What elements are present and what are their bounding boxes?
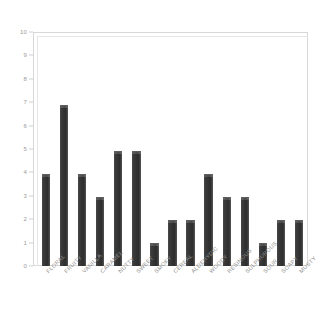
y-axis-tick-mark <box>29 55 33 56</box>
bar-top-cap <box>114 152 122 154</box>
y-axis-tick-mark <box>29 266 33 267</box>
bar-slot <box>204 36 212 266</box>
bar-slot <box>241 36 249 266</box>
y-axis-tick-label: 5 <box>23 146 27 152</box>
bar-top-cap <box>150 244 158 246</box>
y-axis-tick-label: 0 <box>23 263 27 269</box>
bar-chart: 012345678910 FLORALFRUITYVANILLACARAMELN… <box>0 0 324 329</box>
bar-top-cap <box>223 198 231 200</box>
y-axis-tick-mark <box>29 149 33 150</box>
bar-top-cap <box>259 244 267 246</box>
bar <box>277 220 285 266</box>
bar-top-cap <box>204 175 212 177</box>
y-axis-tick-mark <box>29 172 33 173</box>
y-axis: 012345678910 <box>0 32 33 266</box>
y-axis-tick-label: 4 <box>23 169 27 175</box>
y-axis-tick-label: 2 <box>23 216 27 222</box>
y-axis-tick-label: 10 <box>20 29 27 35</box>
bar-slot <box>295 36 303 266</box>
bar-top-cap <box>168 221 176 223</box>
bar-top-cap <box>60 106 68 108</box>
bar-top-cap <box>277 221 285 223</box>
y-axis-tick-mark <box>29 78 33 79</box>
y-axis-tick-mark <box>29 219 33 220</box>
bar-slot <box>168 36 176 266</box>
bar-slot <box>186 36 194 266</box>
y-axis-tick-mark <box>29 102 33 103</box>
bar-top-cap <box>78 175 86 177</box>
bar <box>132 151 140 266</box>
bar-slot <box>277 36 285 266</box>
bar <box>78 174 86 266</box>
bar-top-cap <box>295 221 303 223</box>
bar-top-cap <box>42 175 50 177</box>
y-axis-tick-label: 6 <box>23 123 27 129</box>
y-axis-tick-mark <box>29 242 33 243</box>
y-axis-tick-label: 3 <box>23 193 27 199</box>
bar-slot <box>60 36 68 266</box>
bar-top-cap <box>96 198 104 200</box>
x-axis-category-labels: FLORALFRUITYVANILLACARAMELNUTTYSWEETSMOK… <box>37 266 308 329</box>
bar-slot <box>150 36 158 266</box>
bar-slot <box>96 36 104 266</box>
bar-top-cap <box>132 152 140 154</box>
bar-top-cap <box>241 198 249 200</box>
bars-layer <box>37 36 308 266</box>
bar-slot <box>132 36 140 266</box>
bar-slot <box>223 36 231 266</box>
bar-top-cap <box>186 221 194 223</box>
bar-slot <box>78 36 86 266</box>
y-axis-tick-label: 7 <box>23 99 27 105</box>
bar-slot <box>114 36 122 266</box>
bar-slot <box>42 36 50 266</box>
y-axis-tick-label: 8 <box>23 76 27 82</box>
y-axis-tick-mark <box>29 125 33 126</box>
y-axis-tick-label: 9 <box>23 52 27 58</box>
bar <box>60 105 68 266</box>
y-axis-tick-label: 1 <box>23 240 27 246</box>
bar-slot <box>259 36 267 266</box>
bar <box>42 174 50 266</box>
y-axis-tick-mark <box>29 32 33 33</box>
y-axis-tick-mark <box>29 195 33 196</box>
